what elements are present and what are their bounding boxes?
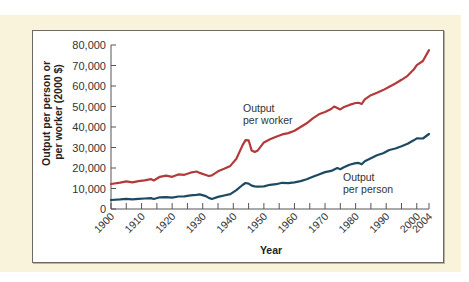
x-tick-label: 1910: [122, 210, 147, 235]
annotation-output-per-person: Output per person: [343, 171, 393, 195]
y-axis-title-line-1: Output per person or: [40, 61, 52, 166]
y-tick-label: 20,000: [72, 162, 106, 174]
y-axis-title-line-2: per worker (2000 $): [52, 64, 64, 160]
x-tick-label: 1940: [214, 210, 239, 235]
line-chart: 010,00020,00030,00040,00050,00060,00070,…: [0, 0, 469, 282]
y-tick-label: 30,000: [72, 142, 106, 154]
y-tick-label: 70,000: [72, 60, 106, 72]
x-tick-label: 1960: [275, 210, 300, 235]
x-tick-label: 1930: [183, 210, 208, 235]
y-tick-label: 80,000: [72, 39, 106, 51]
x-tick-label: 1950: [244, 210, 269, 235]
y-axis-title: Output per person or per worker (2000 $): [40, 58, 64, 166]
x-axis-title: Year: [260, 244, 282, 256]
y-tick-label: 40,000: [72, 121, 106, 133]
y-tick-label: 50,000: [72, 101, 106, 113]
x-axis: 1900191019201930194019501960197019801990…: [91, 203, 434, 235]
x-tick-label: 1900: [91, 210, 116, 235]
x-tick-label: 1970: [305, 210, 330, 235]
x-tick-label: 1920: [153, 210, 178, 235]
y-axis: 010,00020,00030,00040,00050,00060,00070,…: [72, 39, 116, 215]
annotation-output-per-worker: Output per worker: [243, 102, 293, 126]
y-tick-label: 60,000: [72, 80, 106, 92]
x-tick-label: 1990: [367, 210, 392, 235]
y-tick-label: 10,000: [72, 183, 106, 195]
x-tick-label: 1980: [336, 210, 361, 235]
